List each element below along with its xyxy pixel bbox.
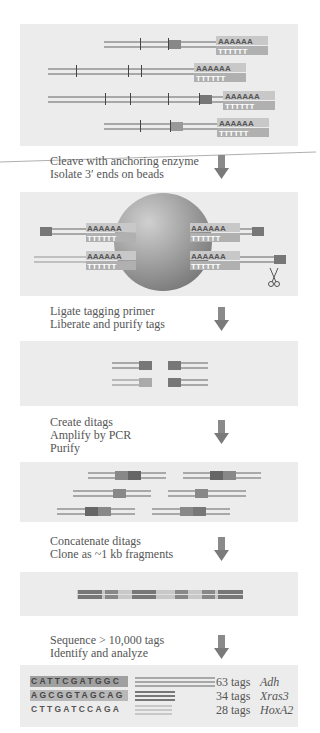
- svg-text:TTTTTT: TTTTTT: [225, 102, 254, 111]
- panel-ditags: [20, 462, 298, 522]
- step-5-text: Sequence > 10,000 tags Identify and anal…: [50, 634, 164, 660]
- tag-sequence: CTTGATCCAGA: [31, 704, 121, 714]
- panel-cdna: AAAAAA TTTTTT AAAAAA TTTTTT AAAAAA TTTTT…: [20, 24, 298, 146]
- step-1-text: Cleave with anchoring enzyme Isolate 3′ …: [50, 155, 199, 181]
- svg-text:AAAAAA: AAAAAA: [191, 224, 226, 233]
- down-arrow-icon: [214, 635, 229, 659]
- panel-tags: [20, 341, 298, 406]
- gene-name: Xras3: [260, 689, 289, 704]
- tag-sequence: CATTCGATGGC: [31, 676, 121, 686]
- cdna-1: AAAAAA TTTTTT: [104, 36, 268, 56]
- down-arrow-icon: [214, 420, 229, 444]
- svg-text:AAAAAA: AAAAAA: [87, 224, 122, 233]
- gene-name: HoxA2: [260, 703, 293, 718]
- step-3-text: Create ditags Amplify by PCR Purify: [50, 416, 131, 455]
- gene-name: Adh: [260, 675, 279, 690]
- svg-text:TTTTTT: TTTTTT: [191, 262, 220, 271]
- svg-text:AAAAAA: AAAAAA: [225, 92, 260, 101]
- step-2-text: Ligate tagging primer Liberate and purif…: [50, 305, 165, 331]
- panel-concatemer: [20, 572, 298, 616]
- down-arrow-icon: [214, 307, 229, 331]
- svg-text:TTTTTT: TTTTTT: [87, 234, 116, 243]
- tag-sequence: AGCGGTAGCAG: [31, 690, 125, 700]
- panel-beads: AAAAAATTTTTT AAAAAATTTTTT AAAAAATTTTTT A…: [20, 192, 298, 296]
- step-4-text: Concatenate ditags Clone as ~1 kb fragme…: [50, 535, 173, 561]
- scissors-icon: [269, 268, 280, 287]
- panel-results: CATTCGATGGC 63 tags Adh AGCGGTAGCAG 34 t…: [20, 665, 298, 727]
- svg-text:AAAAAA: AAAAAA: [191, 252, 226, 261]
- down-arrow-icon: [214, 155, 229, 179]
- svg-text:TTTTTT: TTTTTT: [218, 47, 247, 56]
- cdna-3: AAAAAA TTTTTT: [48, 91, 275, 111]
- cdna-2: AAAAAA TTTTTT: [48, 63, 246, 83]
- svg-text:AAAAAA: AAAAAA: [219, 119, 254, 128]
- svg-text:AAAAAA: AAAAAA: [218, 37, 253, 46]
- svg-text:AAAAAA: AAAAAA: [87, 252, 122, 261]
- tag-count: 63 tags: [216, 675, 250, 690]
- svg-text:TTTTTT: TTTTTT: [87, 262, 116, 271]
- cdna-4: AAAAAA TTTTTT: [104, 118, 269, 138]
- cdna-molecules: AAAAAA TTTTTT AAAAAA TTTTTT AAAAAA TTTTT…: [20, 24, 298, 146]
- svg-text:TTTTTT: TTTTTT: [219, 129, 248, 138]
- tag-count: 28 tags: [216, 703, 250, 718]
- down-arrow-icon: [214, 537, 229, 561]
- tag-count: 34 tags: [216, 689, 250, 704]
- svg-text:TTTTTT: TTTTTT: [191, 234, 220, 243]
- svg-text:TTTTTT: TTTTTT: [196, 74, 225, 83]
- svg-text:AAAAAA: AAAAAA: [196, 64, 231, 73]
